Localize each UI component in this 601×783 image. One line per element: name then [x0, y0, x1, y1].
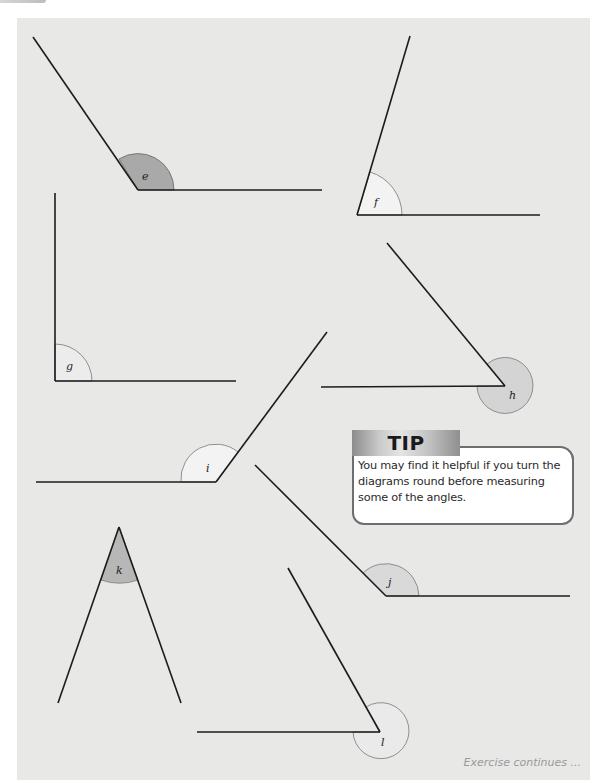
tip-box: TIP You may find it helpful if you turn …: [352, 430, 580, 530]
angle-f: f: [357, 36, 540, 215]
angle-label-e: e: [142, 170, 149, 183]
tip-text: You may find it helpful if you turn the …: [358, 458, 572, 506]
tip-title: TIP: [352, 430, 460, 456]
angle-g: g: [55, 193, 236, 381]
angle-label-k: k: [116, 564, 123, 577]
angle-diagrams: e f g h i j k: [0, 0, 601, 783]
angle-l: l: [197, 568, 409, 759]
exercise-continues-note: Exercise continues ...: [464, 756, 581, 769]
angle-k: k: [58, 527, 181, 703]
angle-label-h: h: [509, 389, 516, 402]
angle-e: e: [33, 37, 322, 190]
angle-label-g: g: [66, 360, 73, 373]
angle-label-i: i: [206, 462, 210, 475]
angle-h: h: [321, 243, 533, 413]
angle-label-l: l: [381, 736, 385, 749]
